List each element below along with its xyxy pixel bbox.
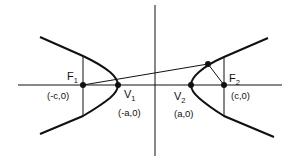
label-v1-coord: (-a,0) xyxy=(118,107,141,118)
label-v2-coord: (a,0) xyxy=(174,108,194,119)
label-v1: V1 xyxy=(124,88,136,103)
hyperbola-diagram: F1 (-c,0) V1 (-a,0) V2 (a,0) F2 (c,0) xyxy=(0,0,296,163)
point-v1 xyxy=(115,82,121,88)
segment-p-f2 xyxy=(208,64,224,85)
label-f1-coord: (-c,0) xyxy=(47,90,69,101)
hyperbola-right-branch xyxy=(191,38,274,137)
label-f2-coord: (c,0) xyxy=(231,90,250,101)
label-f1: F1 xyxy=(67,70,78,85)
label-v2: V2 xyxy=(174,90,186,105)
point-p xyxy=(205,61,211,67)
point-f2 xyxy=(221,82,227,88)
point-f1 xyxy=(80,82,86,88)
point-v2 xyxy=(188,82,194,88)
